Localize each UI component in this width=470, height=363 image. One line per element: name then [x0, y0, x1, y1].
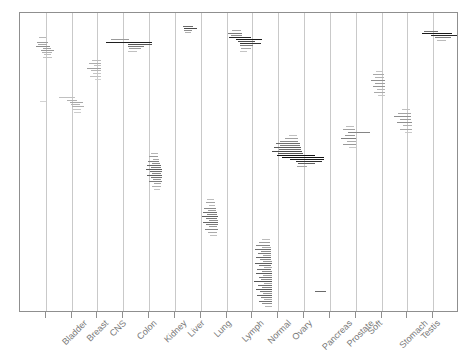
strip-mark: [377, 89, 385, 90]
strip-mark: [152, 186, 161, 187]
strip-mark: [89, 63, 101, 64]
strip-mark: [229, 37, 251, 38]
strip-mark: [263, 293, 272, 294]
strip-mark: [259, 265, 271, 266]
strip-mark: [94, 65, 101, 66]
x-axis-label-text: Lung: [212, 318, 233, 339]
strip-mark: [277, 155, 315, 156]
strip-mark: [207, 199, 214, 200]
strip-mark: [290, 159, 324, 160]
strip-mark: [240, 43, 261, 44]
strip-mark: [204, 208, 216, 209]
strip-mark: [153, 179, 161, 180]
strip-mark: [260, 259, 271, 260]
strip-mark: [43, 48, 51, 49]
category-guide-line: [227, 13, 228, 311]
category-guide-line: [330, 13, 331, 311]
strip-mark: [371, 80, 385, 81]
strip-mark: [272, 151, 302, 152]
strip-mark: [276, 143, 300, 144]
strip-mark: [41, 50, 54, 51]
strip-mark: [147, 165, 161, 166]
strip-mark: [254, 281, 272, 282]
strip-mark: [184, 30, 192, 31]
strip-mark: [397, 122, 412, 123]
x-axis-label-liver: Liver: [186, 318, 207, 339]
strip-mark: [152, 163, 160, 164]
x-axis-label-text: Ovary: [290, 318, 314, 342]
strip-mark: [315, 291, 326, 292]
strip-mark: [128, 44, 152, 45]
strip-mark: [264, 283, 272, 284]
strip-mark: [373, 86, 385, 87]
category-guide-line: [304, 13, 305, 311]
strip-mark: [258, 253, 271, 254]
x-axis-label-cns: CNS: [108, 318, 129, 339]
strip-mark: [374, 92, 385, 93]
strip-mark: [257, 295, 272, 296]
strip-mark: [70, 102, 83, 103]
strip-mark: [264, 299, 272, 300]
strip-mark: [209, 220, 218, 221]
strip-mark: [280, 145, 300, 146]
strip-mark: [347, 141, 356, 142]
strip-mark: [261, 251, 271, 252]
x-axis-label-text: Breast: [85, 318, 110, 343]
strip-mark: [128, 46, 144, 47]
strip-mark: [400, 119, 411, 120]
strip-mark: [256, 289, 272, 290]
strip-mark: [263, 261, 272, 262]
x-axis-label-text: Normal: [265, 318, 293, 346]
strip-mark: [274, 147, 301, 148]
strip-mark: [205, 229, 218, 230]
strip-mark: [74, 112, 81, 113]
strip-mark: [257, 269, 271, 270]
strip-mark: [375, 77, 384, 78]
strip-mark: [402, 109, 410, 110]
strip-mark: [206, 224, 218, 225]
strip-mark: [93, 73, 101, 74]
strip-mark: [146, 169, 162, 170]
strip-mark: [261, 297, 272, 298]
strip-mark: [261, 279, 272, 280]
strip-mark: [71, 104, 80, 105]
strip-mark: [282, 157, 324, 158]
strip-mark: [152, 173, 161, 174]
strip-mark: [185, 32, 191, 33]
strip-mark: [203, 222, 218, 223]
strip-mark: [238, 41, 255, 42]
strip-mark: [259, 242, 270, 243]
strip-mark: [236, 39, 262, 40]
strip-mark: [232, 30, 241, 31]
strip-mark: [151, 177, 162, 178]
strip-mark: [403, 125, 412, 126]
x-axis-label-text: Lymph: [240, 318, 266, 344]
strip-mark: [346, 126, 354, 127]
x-axis-label-text: Liver: [186, 318, 207, 339]
strip-mark: [150, 171, 162, 172]
strip-mark: [435, 37, 451, 38]
x-axis-label-text: Colon: [135, 318, 159, 342]
category-guide-line: [382, 13, 383, 311]
strip-chart-figure: BladderBreastCNSColonKidneyLiverLungLymp…: [0, 0, 470, 363]
category-guide-line: [407, 13, 408, 311]
strip-mark: [260, 291, 272, 292]
strip-mark: [149, 156, 158, 157]
strip-mark: [262, 247, 271, 248]
strip-mark: [258, 285, 272, 286]
strip-mark: [73, 109, 81, 110]
strip-mark: [209, 205, 215, 206]
strip-mark: [424, 31, 438, 32]
strip-mark: [59, 97, 75, 98]
strip-mark: [151, 153, 158, 154]
strip-mark: [183, 26, 193, 27]
strip-mark: [280, 141, 298, 142]
strip-mark: [264, 267, 272, 268]
strip-mark: [91, 70, 101, 71]
strip-mark: [206, 202, 215, 203]
strip-mark: [129, 48, 141, 49]
strip-mark: [256, 257, 271, 258]
strip-mark: [67, 100, 77, 101]
strip-mark: [255, 263, 272, 264]
strip-mark: [241, 48, 251, 49]
